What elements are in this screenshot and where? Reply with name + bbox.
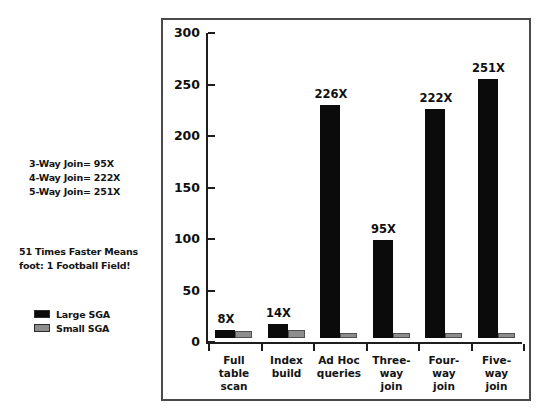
plot-area: 0501001502002503008XFulltablescan14XInde… [163,20,529,399]
legend-item: Small SGA [34,321,110,335]
legend-label: Small SGA [56,323,109,334]
join-summary-note: 3-Way Join= 95X4-Way Join= 222X5-Way Joi… [29,157,120,199]
y-axis-tick [208,187,215,189]
x-axis-category-label: Fulltablescan [207,354,261,393]
legend-swatch-icon [34,324,50,332]
legend-label: Large SGA [56,309,110,320]
y-axis-tick-label: 200 [160,128,200,143]
x-axis-category-label: Five-wayjoin [470,354,524,393]
annotation-panel: 3-Way Join= 95X4-Way Join= 222X5-Way Joi… [0,0,160,420]
y-axis-tick [208,341,215,343]
x-axis-tick [523,344,525,351]
x-axis-tick [471,344,473,351]
bar-large-sga [425,109,445,338]
x-axis-tick [366,344,368,351]
bar-large-sga [268,324,288,338]
y-axis-tick-label: 0 [160,334,200,349]
bar-value-label: 95X [363,222,405,236]
bar-small-sga [445,333,462,338]
x-axis-tick [313,344,315,351]
y-axis-tick [208,135,215,137]
x-axis-category-label: Three-wayjoin [365,354,419,393]
legend-item: Large SGA [34,307,110,321]
x-axis-line [206,342,522,344]
chart-legend: Large SGASmall SGA [34,307,110,335]
bar-value-label: 226X [310,87,352,101]
bar-small-sga [498,333,515,338]
y-axis-tick [208,84,215,86]
bar-value-label: 251X [468,61,510,75]
y-axis-tick-label: 250 [160,77,200,92]
bar-small-sga [288,330,305,338]
faster-means-note: 51 Times Faster Meansfoot: 1 Football Fi… [19,245,138,273]
bar-value-label: 222X [415,91,457,105]
legend-swatch-icon [34,310,50,318]
bar-large-sga [373,240,393,338]
y-axis-tick [208,32,215,34]
y-axis-tick-label: 300 [160,25,200,40]
x-axis-tick [208,344,210,351]
bar-small-sga [393,333,410,338]
bar-small-sga [235,331,252,338]
y-axis-tick-label: 50 [160,283,200,298]
x-axis-category-label: Ad Hocqueries [312,354,366,380]
bar-value-label: 14X [258,306,300,320]
bar-large-sga [215,330,235,338]
bar-large-sga [478,79,498,338]
y-axis-tick-label: 150 [160,180,200,195]
y-axis-tick-label: 100 [160,231,200,246]
y-axis-tick [208,290,215,292]
bar-small-sga [340,333,357,338]
y-axis-line [206,33,208,344]
bar-value-label: 8X [205,312,247,326]
bar-large-sga [320,105,340,338]
x-axis-category-label: Four-wayjoin [417,354,471,393]
x-axis-tick [261,344,263,351]
y-axis-tick [208,238,215,240]
chart-frame: 0501001502002503008XFulltablescan14XInde… [161,18,531,401]
x-axis-tick [418,344,420,351]
x-axis-category-label: Indexbuild [260,354,314,380]
